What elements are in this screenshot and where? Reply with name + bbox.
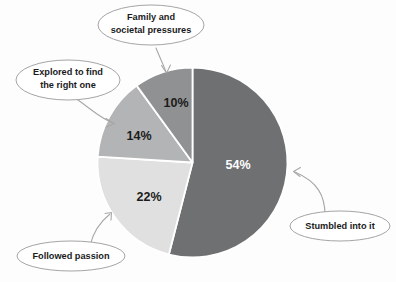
slice-value-label-family: 10%: [163, 96, 188, 110]
slice-value-label-followed: 22%: [136, 190, 161, 204]
chart-canvas: 54% 22% 14% 10%: [0, 0, 396, 282]
callout-followed-passion[interactable]: Followed passion: [17, 241, 125, 271]
pie-chart-figure: 54% 22% 14% 10%: [0, 0, 396, 282]
callout-label-stumbled: Stumbled into it: [305, 221, 374, 231]
callout-family-and-societal-pressures[interactable]: Family and societal pressures: [98, 5, 204, 45]
connector-arrow-stumbled: [294, 168, 326, 216]
pie-slices: [98, 68, 288, 258]
callout-label-explored-line1: Explored to find: [33, 67, 103, 77]
callout-label-family-line2: societal pressures: [111, 25, 192, 35]
callout-label-followed: Followed passion: [32, 251, 109, 261]
connector-arrow-followed: [90, 213, 112, 247]
callout-label-family-line1: Family and: [127, 12, 175, 22]
connector-arrow-family: [156, 48, 171, 73]
callout-stumbled-into-it[interactable]: Stumbled into it: [290, 211, 390, 241]
slice-value-label-stumbled: 54%: [225, 158, 250, 172]
slice-value-label-explored: 14%: [126, 129, 151, 143]
callout-label-explored-line2: the right one: [40, 80, 96, 90]
callout-explored-to-find-the-right-one[interactable]: Explored to find the right one: [16, 60, 120, 100]
